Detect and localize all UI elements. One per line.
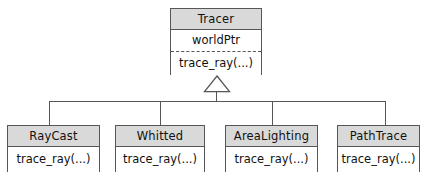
class-box-whitted[interactable]: Whitted trace_ray(...): [115, 125, 205, 172]
class-attribute-worldptr: worldPtr: [171, 30, 261, 51]
connector-drop-arealighting: [272, 101, 273, 126]
class-name-whitted: Whitted: [116, 126, 204, 147]
class-operation-trace-ray-raycast: trace_ray(...): [8, 147, 99, 172]
class-box-pathtrace[interactable]: PathTrace trace_ray(...): [337, 125, 420, 172]
connector-horizontal-bus: [49, 101, 386, 102]
class-operation-trace-ray-whitted: trace_ray(...): [116, 147, 204, 172]
connector-drop-raycast: [49, 101, 50, 126]
class-name-pathtrace: PathTrace: [338, 126, 419, 147]
class-name-tracer: Tracer: [171, 9, 261, 30]
class-operation-trace-ray-arealighting: trace_ray(...): [226, 147, 317, 172]
connector-drop-whitted: [160, 101, 161, 126]
connector-drop-pathtrace: [385, 101, 386, 126]
class-box-tracer[interactable]: Tracer worldPtr trace_ray(...): [170, 8, 262, 75]
class-operation-trace-ray-tracer: trace_ray(...): [171, 51, 261, 75]
class-name-raycast: RayCast: [8, 126, 99, 147]
class-box-raycast[interactable]: RayCast trace_ray(...): [7, 125, 100, 172]
uml-class-diagram: Tracer worldPtr trace_ray(...) RayCast t…: [0, 0, 433, 180]
inheritance-triangle-icon: [203, 75, 231, 93]
class-box-arealighting[interactable]: AreaLighting trace_ray(...): [225, 125, 318, 172]
class-name-arealighting: AreaLighting: [226, 126, 317, 147]
class-operation-trace-ray-pathtrace: trace_ray(...): [338, 147, 419, 172]
